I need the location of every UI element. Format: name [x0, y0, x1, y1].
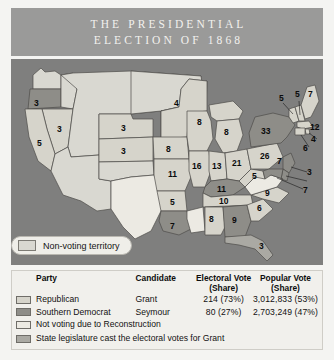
- map-label-iowa: 8: [166, 144, 171, 154]
- row-popular-seymour: 2,703,249 (47%): [253, 306, 318, 319]
- map-label-new-york: 33: [261, 126, 271, 136]
- legend-swatch-republican-cell: [16, 293, 36, 306]
- territory-swatch-icon: [18, 240, 36, 251]
- map-label-illinois: 16: [192, 161, 202, 171]
- map-label-ohio: 21: [232, 158, 242, 168]
- row-popular-grant: 3,012,833 (53%): [253, 293, 318, 306]
- map-label-florida: 3: [259, 241, 264, 251]
- row-electoral-seymour: 80 (27%): [194, 306, 253, 319]
- table-row: Southern Democrat Seymour 80 (27%) 2,703…: [16, 306, 318, 319]
- map-label-rhode-island: 4: [311, 134, 316, 144]
- map-label-kansas: 3: [121, 146, 126, 156]
- map-label-new-jersey: 7: [277, 156, 282, 166]
- map-label-maine: 7: [308, 89, 313, 99]
- state-georgia: [223, 205, 251, 237]
- map-label-indiana: 13: [212, 161, 222, 171]
- map-label-arkansas: 5: [170, 197, 175, 207]
- map-label-west-virginia: 5: [252, 171, 257, 181]
- map-label-south-carolina: 6: [257, 203, 262, 213]
- map-label-north-carolina: 9: [265, 188, 270, 198]
- column-header-electoral-line2: (Share): [194, 284, 253, 294]
- map-label-delaware: 3: [307, 167, 312, 177]
- legend-note-row: Not voting due to Reconstruction: [16, 318, 318, 332]
- election-map-figure: THE PRESIDENTIAL ELECTION OF 1868 .st{st…: [0, 0, 334, 360]
- legend-note-state-legislature: State legislature cast the electoral vot…: [36, 332, 318, 346]
- map-label-california: 5: [37, 138, 42, 148]
- map-label-missouri: 11: [168, 169, 177, 179]
- territory-key-label: Non-voting territory: [43, 241, 120, 251]
- map-label-massachusetts: 12: [310, 122, 320, 132]
- state-louisiana: [159, 211, 191, 235]
- row-candidate-seymour: Seymour: [136, 306, 195, 319]
- legend-swatch-democrat-cell: [16, 306, 36, 319]
- map-label-wisconsin: 8: [197, 117, 202, 127]
- state-connecticut: [295, 128, 305, 135]
- southern-democrat-swatch-icon: [16, 308, 31, 316]
- state-mississippi: [187, 207, 205, 233]
- map-label-michigan: 8: [224, 127, 229, 137]
- legend-note-not-voting: Not voting due to Reconstruction: [36, 318, 318, 332]
- non-voting-territory-key: Non-voting territory: [11, 236, 132, 255]
- map-svg: .st{stroke:#4d4c49;stroke-width:0.7;stro…: [11, 59, 323, 265]
- table-row: Republican Grant 214 (73%) 3,012,833 (53…: [16, 293, 318, 306]
- state-kansas: [99, 137, 153, 162]
- map-label-new-hampshire: 5: [295, 89, 300, 99]
- figure-title-banner: THE PRESIDENTIAL ELECTION OF 1868: [11, 8, 323, 56]
- legend-swatch-not-voting-cell: [16, 318, 36, 332]
- column-header-party: Party: [36, 274, 135, 293]
- legend-panel: Party Candidate Electoral Vote (Share) P…: [11, 270, 323, 350]
- row-candidate-grant: Grant: [136, 293, 195, 306]
- map-label-oregon: 3: [34, 98, 39, 108]
- map-label-maryland: 7: [303, 185, 308, 195]
- state-legislature-swatch-icon: [16, 335, 31, 343]
- legend-swatch-state-legislature-cell: [16, 332, 36, 346]
- state-iowa: [153, 137, 189, 159]
- row-electoral-grant: 214 (73%): [194, 293, 253, 306]
- column-header-popular-line2: (Share): [253, 284, 318, 294]
- table-header-row: Party Candidate Electoral Vote (Share) P…: [16, 274, 318, 293]
- legend-note-row: State legislature cast the electoral vot…: [16, 332, 318, 346]
- map-label-louisiana: 7: [170, 221, 175, 231]
- map-label-pennsylvania: 26: [260, 151, 270, 161]
- map-label-nebraska: 3: [121, 123, 126, 133]
- map-label-vermont: 5: [279, 93, 284, 103]
- map-label-georgia: 9: [232, 215, 237, 225]
- map-label-connecticut: 6: [303, 143, 308, 153]
- column-header-electoral: Electoral Vote (Share): [194, 274, 253, 293]
- row-party-southern-democrat: Southern Democrat: [36, 306, 135, 319]
- row-party-republican: Republican: [36, 293, 135, 306]
- map-label-tennessee: 10: [219, 196, 229, 206]
- not-voting-swatch-icon: [16, 321, 31, 329]
- map-label-nevada: 3: [57, 124, 62, 134]
- map-label-alabama: 8: [209, 214, 214, 224]
- header-swatch-spacer: [16, 274, 36, 293]
- republican-swatch-icon: [16, 296, 31, 304]
- state-oregon: [28, 89, 61, 109]
- us-election-map: .st{stroke:#4d4c49;stroke-width:0.7;stro…: [11, 59, 323, 265]
- map-label-minnesota: 4: [174, 98, 179, 108]
- column-header-popular: Popular Vote (Share): [253, 274, 318, 293]
- page-title-line2: ELECTION OF 1868: [91, 32, 243, 48]
- column-header-candidate: Candidate: [136, 274, 195, 293]
- map-label-kentucky: 11: [217, 184, 226, 194]
- state-alabama: [205, 207, 225, 235]
- page-title-line1: THE PRESIDENTIAL: [88, 16, 247, 32]
- results-table: Party Candidate Electoral Vote (Share) P…: [16, 274, 318, 346]
